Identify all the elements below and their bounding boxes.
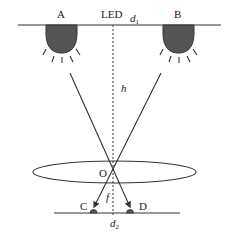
lamp-a-bulb: [46, 25, 77, 53]
label-f: f: [106, 191, 111, 203]
label-h: h: [121, 82, 127, 94]
label-b: B: [174, 8, 181, 20]
label-o: O: [99, 167, 107, 179]
ray-b-to-c: [94, 73, 161, 207]
optics-diagram: A LED d1 B h O f C D d2: [0, 0, 230, 241]
lamp-a: [43, 25, 80, 63]
label-d2: d2: [110, 217, 120, 231]
point-c-marker: [90, 210, 97, 213]
label-d1: d1: [130, 12, 140, 26]
lamp-b: [160, 25, 197, 63]
label-d2-sub: 2: [116, 223, 120, 231]
label-led: LED: [101, 8, 122, 20]
label-d1-sub: 1: [136, 18, 140, 26]
label-a: A: [57, 8, 65, 20]
label-d: D: [139, 200, 147, 212]
point-d-marker: [127, 210, 134, 213]
lamp-b-bulb: [163, 25, 194, 53]
label-c: C: [80, 200, 87, 212]
